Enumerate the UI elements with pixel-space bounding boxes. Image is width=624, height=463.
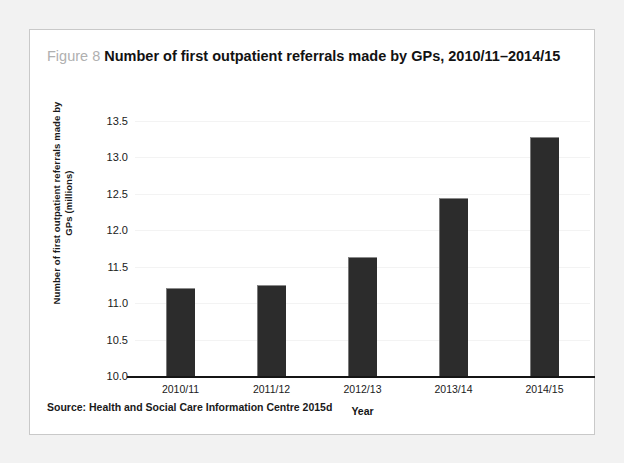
y-axis-tick-label: 10.5 [107,334,128,346]
chart-plot-wrapper: Number of first outpatient referrals mad… [30,78,596,388]
bar [348,257,377,376]
bar [439,198,468,376]
bar [257,285,286,376]
page-title: Figure 8 Number of first outpatient refe… [47,47,560,65]
gridline [135,157,590,158]
gridline [135,194,590,195]
y-axis-tick-label: 12.5 [107,188,128,200]
y-axis-tick-label: 11.0 [107,297,128,309]
x-axis-line [127,376,595,378]
bar [166,288,195,376]
bar [530,137,559,376]
y-axis-tick-label: 10.0 [107,370,128,382]
x-axis-tick-label: 2013/14 [435,383,473,395]
gridline [135,121,590,122]
x-axis-tick-label: 2014/15 [526,383,564,395]
x-axis-tick-label: 2011/12 [253,383,290,395]
gridline [135,230,590,231]
y-axis-title: Number of first outpatient referrals mad… [51,93,75,313]
source-note: Source: Health and Social Care Informati… [47,401,332,413]
x-axis-tick-label: 2010/11 [162,383,199,395]
y-axis-tick-label: 11.5 [107,261,128,273]
figure-title-text: Number of first outpatient referrals mad… [104,48,560,64]
y-axis-tick-label: 13.0 [107,151,128,163]
x-axis-tick-label: 2012/13 [344,383,382,395]
figure-number-label: Figure 8 [47,48,100,64]
y-axis-tick-label: 13.5 [107,115,128,127]
y-axis-tick-label: 12.0 [107,224,128,236]
figure-card: Figure 8 Number of first outpatient refe… [29,29,595,435]
chart-plot-area: 10.010.511.011.512.012.513.013.5 2010/11… [135,121,590,376]
